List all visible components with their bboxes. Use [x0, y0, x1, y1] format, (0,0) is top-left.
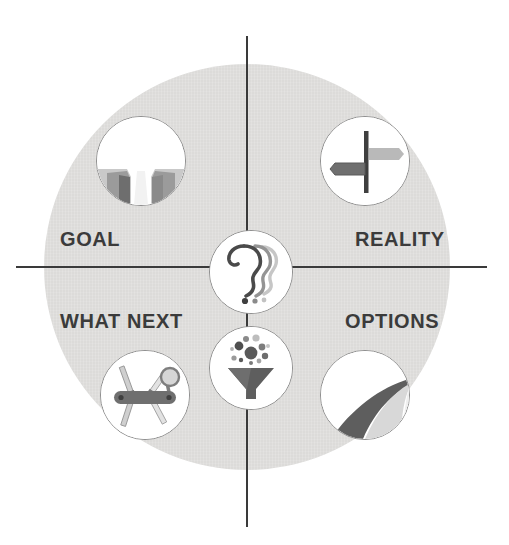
winding-road-icon: [321, 351, 409, 439]
quadrant-label-reality: REALITY: [355, 228, 445, 251]
signpost-icon: [321, 117, 409, 205]
options-icon-bubble[interactable]: [320, 350, 410, 440]
funnel-ideas-icon: [210, 327, 292, 409]
center-question-bubble[interactable]: [209, 230, 293, 314]
multi-tool-knife-icon: [101, 351, 189, 439]
path-between-cliffs-icon: [97, 117, 185, 205]
quadrant-label-options: OPTIONS: [345, 310, 439, 333]
grow-model-diagram: GOAL REALITY WHAT NEXT OPTIONS: [0, 0, 509, 545]
quadrant-label-what-next: WHAT NEXT: [60, 310, 183, 333]
quadrant-label-goal: GOAL: [60, 228, 120, 251]
question-head-profiles-icon: [210, 231, 292, 313]
goal-icon-bubble[interactable]: [96, 116, 186, 206]
what-next-icon-bubble[interactable]: [100, 350, 190, 440]
reality-icon-bubble[interactable]: [320, 116, 410, 206]
center-funnel-bubble[interactable]: [209, 326, 293, 410]
